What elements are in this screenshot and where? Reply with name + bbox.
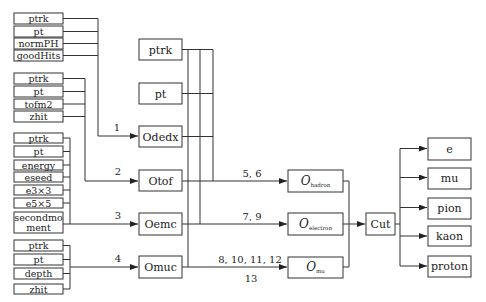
edge-label-electron: 7, 9	[242, 211, 261, 222]
connector-group-4	[63, 246, 138, 290]
edge-label-1: 1	[114, 122, 120, 133]
edge-label-mu-cont: 13	[245, 273, 258, 284]
input-label: pt	[34, 146, 44, 157]
input-label: energy	[22, 160, 56, 171]
input-label: ptrk	[28, 13, 48, 24]
detector-box-label: Odedx	[143, 131, 180, 144]
input-label: pt	[34, 86, 44, 97]
shared-box-label: ptrk	[149, 44, 173, 57]
output-label: proton	[431, 260, 468, 273]
input-label: ptrk	[28, 133, 48, 144]
merge-connector	[343, 181, 349, 267]
input-label: ptrk	[28, 73, 48, 84]
output-boxes: e mu pion kaon proton	[428, 138, 471, 277]
edge-label-hadron: 5, 6	[242, 168, 261, 179]
output-label: e	[446, 143, 453, 156]
input-label: goodHits	[17, 50, 61, 61]
combined-box-hadron	[288, 170, 343, 192]
edge-label-mu: 8, 10, 11, 12	[218, 254, 282, 265]
shared-variable-boxes: ptrk pt	[139, 39, 182, 104]
input-label: normPH	[18, 38, 58, 49]
detector-box-label: Oemc	[144, 218, 176, 231]
detector-boxes: Odedx Otof Oemc Omuc	[139, 126, 182, 278]
output-label: mu	[441, 172, 459, 185]
connector-group-2	[63, 79, 138, 182]
output-label: kaon	[436, 230, 463, 243]
fanout-trunk	[395, 149, 400, 267]
variable-bus-lines	[182, 50, 213, 268]
output-label: pion	[437, 202, 461, 215]
input-label: pt	[34, 26, 44, 37]
input-label: ment	[26, 222, 51, 233]
combined-boxes: Ohadron Oelectron Omu	[288, 170, 343, 278]
connector-group-1	[63, 19, 138, 137]
input-label: tofm2	[24, 99, 52, 110]
cut-box-label: Cut	[371, 218, 392, 231]
edge-label-2: 2	[115, 166, 121, 177]
input-label: pt	[34, 254, 44, 265]
input-label: ptrk	[28, 240, 48, 251]
detector-box-label: Omuc	[144, 261, 177, 274]
detector-box-label: Otof	[148, 175, 173, 188]
input-group-4: ptrk pt depth zhit 4	[14, 240, 138, 295]
input-label: e3×3	[26, 185, 52, 196]
input-label: zhit	[30, 284, 48, 295]
combined-box-electron	[288, 213, 343, 235]
input-label: zhit	[30, 111, 48, 122]
edge-label-4: 4	[115, 253, 121, 264]
input-label: eseed	[25, 172, 53, 183]
edge-label-3: 3	[115, 210, 121, 221]
input-group-3: ptrk pt energy eseed e3×3 e5×5 secondmo …	[14, 133, 138, 234]
input-label: depth	[25, 268, 53, 279]
particle-id-flow-diagram: ptrk pt normPH goodHits 1 ptrk pt tofm2 …	[0, 0, 486, 302]
input-label: e5×5	[26, 198, 52, 209]
shared-box-label: pt	[155, 88, 167, 101]
